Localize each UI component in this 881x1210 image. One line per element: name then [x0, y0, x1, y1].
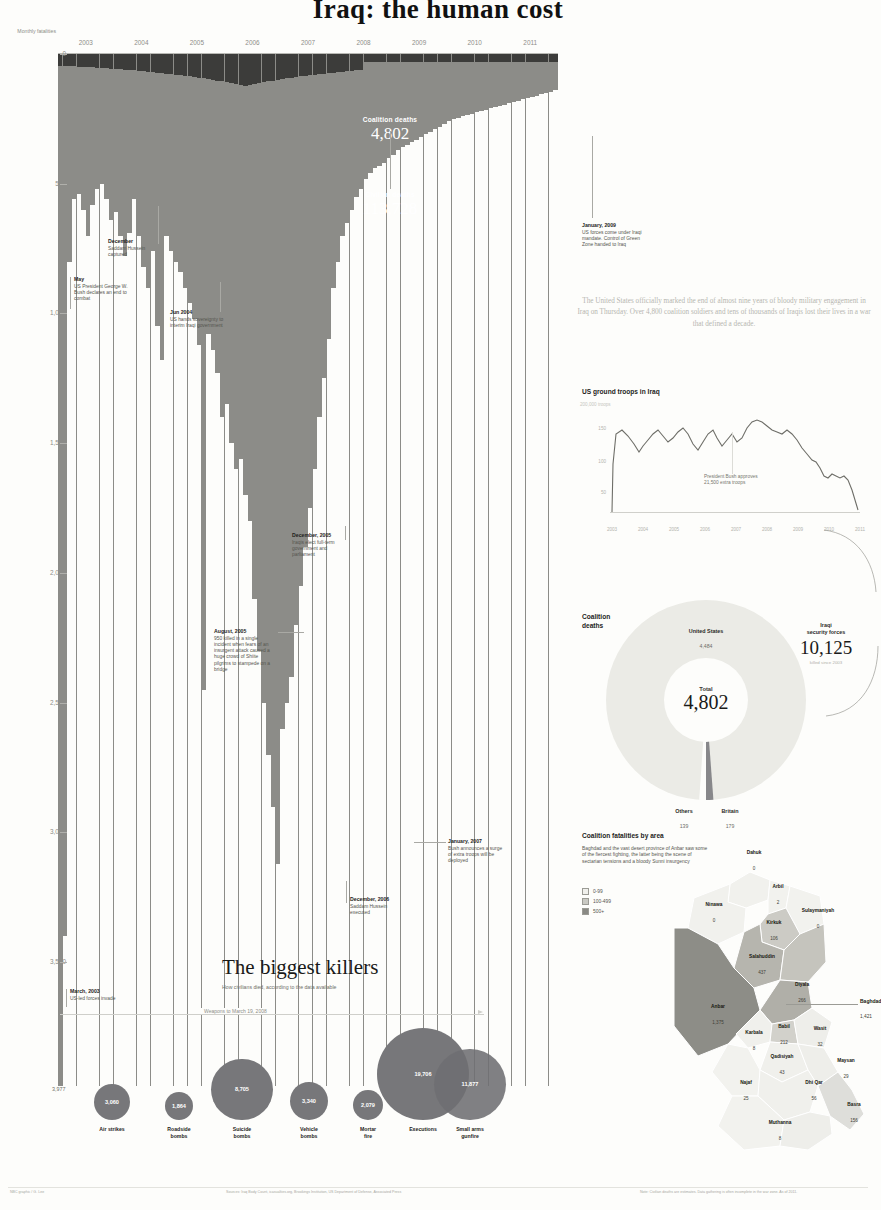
- killer-bubble-label: Roadsidebombs: [167, 1126, 190, 1139]
- timeline-y-tick-mark: [60, 703, 67, 704]
- annotation-december-2006: December, 2006 Saddam Hussein executed: [350, 896, 406, 916]
- province-babil: Babil 212: [778, 1024, 790, 1048]
- timeline-peak-value: 3,977: [52, 1086, 66, 1092]
- map-legend: 0-99 100-499 500+: [582, 888, 611, 918]
- footer-divider: [8, 1187, 868, 1188]
- killer-bubble-label: Suicidebombs: [233, 1126, 251, 1139]
- callout-leader-line: [390, 131, 391, 189]
- province-kirkuk: Kirkuk 106: [767, 920, 782, 944]
- troops-x-axis: [610, 512, 860, 513]
- annotation-december-2005: December, 2005 Iraqis elect full-term go…: [292, 532, 348, 558]
- killer-bubble: 3,060: [94, 1084, 130, 1120]
- timeline-year-label: 2011: [523, 39, 537, 46]
- timeline-year-label: 2010: [468, 39, 482, 46]
- legend-swatch-high: [582, 908, 589, 915]
- killer-label-line2: bombs: [300, 1133, 317, 1139]
- annotation-jun-2004: Jun 2004 US hands sovereignty to interim…: [170, 309, 226, 329]
- killer-label-line2: fire: [364, 1133, 372, 1139]
- troops-line-path: [610, 404, 860, 512]
- timeline-year-label: 2008: [356, 39, 370, 46]
- troops-x-tick: 2003: [607, 527, 617, 532]
- biggest-killers-subtitle: How civilians died, according to the dat…: [222, 984, 336, 990]
- killer-label-line1: Executions: [409, 1126, 437, 1132]
- timeline-plot-area: [58, 54, 558, 1086]
- footer-sources: Sources: Iraq Body Count, icasualties.or…: [226, 1190, 401, 1194]
- annotation-leader-5: [278, 632, 304, 633]
- civilian-deaths-callout: Civilian deaths 113,728: [320, 191, 460, 219]
- footer: NBC graphic / G. Lee Sources: Iraq Body …: [0, 1190, 876, 1204]
- killer-bubble: 1,864: [165, 1092, 193, 1120]
- right-column: The United States officially marked the …: [566, 0, 876, 1210]
- timeline-year-axis: 200320042005200620072008200920102011: [58, 39, 558, 53]
- timeline-y-tick-mark: [60, 443, 67, 444]
- timeline-bar: [553, 90, 557, 1086]
- timeline-year-label: 2005: [190, 39, 204, 46]
- killer-bubble-label: Air strikes: [99, 1126, 124, 1133]
- province-qadisiyah: Qadisiyah 43: [771, 1054, 794, 1078]
- legend-item-0: 0-99: [582, 888, 611, 895]
- timeline-y-tick: 500: [14, 184, 566, 185]
- killer-label-line2: bombs: [233, 1133, 250, 1139]
- killer-bubble: 2,079: [353, 1090, 383, 1120]
- timeline-y-axis-label: Monthly fatalities: [14, 28, 56, 35]
- troops-y-tick-100: 100: [582, 459, 606, 464]
- weapons-rule-label: Weapons to March 19, 2008: [198, 1008, 273, 1014]
- biggest-killers-title: The biggest killers: [222, 955, 378, 980]
- donut-label-others: Others 139: [675, 808, 692, 832]
- troops-x-tick: 2004: [638, 527, 648, 532]
- timeline-year-label: 2006: [245, 39, 259, 46]
- province-muthanna: Muthanna 8: [769, 1120, 792, 1144]
- annotation-leader-2: [158, 206, 159, 244]
- timeline-y-tick-mark: [60, 54, 67, 55]
- annotation-leader-4: [345, 526, 346, 540]
- province-arbil: Arbil 2: [773, 884, 784, 908]
- province-anbar: Anbar 1,375: [711, 1004, 725, 1028]
- killer-bubble-label: Mortarfire: [360, 1126, 376, 1139]
- timeline-y-tick-mark: [60, 184, 67, 185]
- annotation-leader-7: [414, 842, 446, 843]
- killer-label-line1: Suicide: [233, 1126, 251, 1132]
- weapons-rule: [60, 1014, 484, 1015]
- troops-y-tick-50: 50: [582, 490, 606, 495]
- annotation-january-2007: January, 2007 Bush announces a surge of …: [448, 838, 504, 864]
- troops-chart: 200,000 troops 150 100 50 President Bush…: [582, 404, 866, 522]
- troops-x-tick: 2005: [669, 527, 679, 532]
- map-label-baghdad: Baghdad 1,421: [860, 998, 881, 1022]
- donut-label-britain: Britain 179: [721, 808, 738, 832]
- killer-bubble-label: Small armsgunfire: [456, 1126, 484, 1139]
- killer-bubble: 3,340: [290, 1082, 328, 1120]
- killer-label-line2: bombs: [170, 1133, 187, 1139]
- troops-chart-title: US ground troops in Iraq: [582, 388, 660, 395]
- timeline-year-label: 2003: [79, 39, 93, 46]
- troops-surge-marker: [732, 432, 733, 474]
- timeline-year-label: 2007: [301, 39, 315, 46]
- province-salahuddin: Salahuddin 437: [749, 954, 775, 978]
- province-najaf: Najaf 25: [740, 1080, 752, 1104]
- timeline-y-tick: 3,000: [14, 832, 566, 833]
- province-basra: Basra 156: [847, 1102, 860, 1126]
- timeline-y-tick-mark: [60, 832, 67, 833]
- annotation-december-2003: December Saddam Hussein captured: [108, 238, 164, 258]
- iraq-map: Dahuk 0 Ninawa 0 Arbil 2 Sulaymaniyah 0 …: [674, 858, 872, 1163]
- legend-item-2: 500+: [582, 908, 611, 915]
- map-title: Coalition fatalities by area: [582, 832, 664, 839]
- legend-swatch-low: [582, 888, 589, 895]
- province-wasit: Wasit 32: [814, 1026, 827, 1050]
- killer-label-line1: Air strikes: [99, 1126, 124, 1132]
- killer-label-line2: gunfire: [461, 1133, 479, 1139]
- timeline-y-tick: 2,500: [14, 703, 566, 704]
- troops-chart-note: President Bush approves 21,500 extra tro…: [704, 474, 770, 486]
- killer-label-line1: Vehicle: [300, 1126, 318, 1132]
- annotation-march-2003: March, 2003 US-led forces invade: [70, 988, 126, 1002]
- province-maysan: Maysan 29: [837, 1058, 855, 1082]
- legend-item-1: 100-499: [582, 898, 611, 905]
- annotation-leader-8: [66, 989, 67, 1007]
- killer-label-line1: Mortar: [360, 1126, 376, 1132]
- troops-y-tick-150: 150: [582, 426, 606, 431]
- timeline-y-tick-mark: [60, 313, 67, 314]
- timeline-year-label: 2009: [412, 39, 426, 46]
- annotation-leader-1: [70, 277, 71, 309]
- province-dhiqar: Dhi Qar 56: [805, 1080, 822, 1104]
- timeline-chart: Monthly fatalities 200320042005200620072…: [0, 26, 560, 1086]
